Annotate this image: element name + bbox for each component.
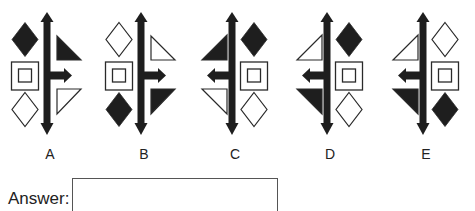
hollow-triangle-icon <box>202 89 227 114</box>
figure-options <box>0 0 475 140</box>
inner-square-icon <box>343 69 356 82</box>
horizontal-shaft <box>144 72 160 80</box>
arrow-left-icon <box>398 68 406 83</box>
inner-square-icon <box>248 69 261 82</box>
filled-triangle-icon <box>297 89 322 114</box>
hollow-diamond-icon <box>106 23 132 57</box>
option-label-c: C <box>230 146 240 162</box>
horizontal-shaft <box>404 72 420 80</box>
horizontal-shaft <box>308 72 324 80</box>
arrowhead-down-icon <box>41 123 54 135</box>
hollow-triangle-icon <box>151 36 175 60</box>
hollow-diamond-icon <box>241 93 267 127</box>
filled-diamond-icon <box>336 23 362 57</box>
arrow-right-icon <box>64 68 72 83</box>
filled-diamond-icon <box>106 93 132 127</box>
arrowhead-down-icon <box>135 123 148 135</box>
filled-triangle-icon <box>151 89 175 114</box>
arrow-left-icon <box>207 68 215 83</box>
answer-label: Answer: <box>8 189 69 209</box>
hollow-triangle-icon <box>393 35 418 60</box>
arrowhead-up-icon <box>321 12 334 22</box>
horizontal-shaft <box>50 72 66 80</box>
filled-triangle-icon <box>202 35 227 60</box>
filled-triangle-icon <box>57 36 81 60</box>
vertical-shaft <box>229 21 236 124</box>
figure-option-b[interactable] <box>106 12 176 135</box>
option-label-a: A <box>45 146 54 162</box>
horizontal-shaft <box>213 72 229 80</box>
filled-triangle-icon <box>393 89 418 114</box>
arrowhead-up-icon <box>417 12 430 22</box>
arrowhead-up-icon <box>41 12 54 22</box>
arrowhead-up-icon <box>135 12 148 22</box>
option-label-d: D <box>325 146 335 162</box>
filled-diamond-icon <box>432 93 458 127</box>
arrow-right-icon <box>158 68 166 83</box>
vertical-shaft <box>44 21 51 124</box>
arrowhead-down-icon <box>226 123 239 135</box>
vertical-shaft <box>138 21 145 124</box>
option-label-b: B <box>139 146 148 162</box>
filled-diamond-icon <box>12 23 38 57</box>
inner-square-icon <box>439 69 452 82</box>
arrowhead-up-icon <box>226 12 239 22</box>
inner-square-icon <box>19 69 32 82</box>
filled-diamond-icon <box>241 23 267 57</box>
arrowhead-down-icon <box>321 123 334 135</box>
hollow-diamond-icon <box>432 23 458 57</box>
vertical-shaft <box>420 21 427 124</box>
vertical-shaft <box>324 21 331 124</box>
hollow-diamond-icon <box>336 93 362 127</box>
hollow-triangle-icon <box>297 35 322 60</box>
answer-input-box[interactable] <box>72 178 278 211</box>
inner-square-icon <box>113 69 126 82</box>
figure-option-d[interactable] <box>297 12 363 135</box>
arrow-left-icon <box>302 68 310 83</box>
figure-option-e[interactable] <box>393 12 459 135</box>
hollow-triangle-icon <box>57 89 81 114</box>
figure-option-a[interactable] <box>12 12 82 135</box>
option-label-e: E <box>421 146 430 162</box>
hollow-diamond-icon <box>12 93 38 127</box>
arrowhead-down-icon <box>417 123 430 135</box>
figure-option-c[interactable] <box>202 12 268 135</box>
